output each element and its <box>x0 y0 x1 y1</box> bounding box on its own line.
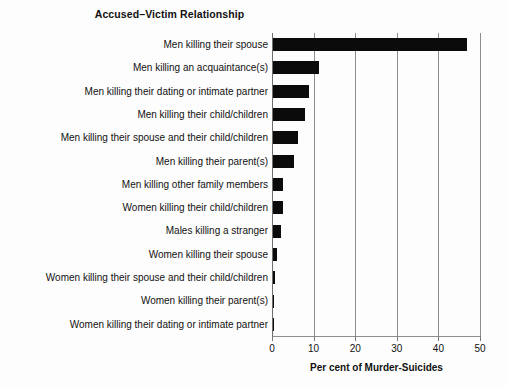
category-label: Women killing their spouse <box>0 243 268 266</box>
bar-chart: Accused–Victim Relationship Men killing … <box>0 0 507 386</box>
bar <box>273 131 298 144</box>
x-tick-label: 30 <box>382 343 412 354</box>
category-label: Men killing their child/children <box>0 103 268 126</box>
x-tick-mark <box>272 336 273 341</box>
category-label: Men killing their spouse and their child… <box>0 126 268 149</box>
x-tick-label: 20 <box>340 343 370 354</box>
category-label: Men killing their spouse <box>0 33 268 56</box>
chart-title: Accused–Victim Relationship <box>0 8 339 20</box>
bar-row: Men killing their dating or intimate par… <box>0 80 507 103</box>
x-tick-mark <box>397 336 398 341</box>
category-label: Men killing an acquaintance(s) <box>0 56 268 79</box>
category-label: Men killing their parent(s) <box>0 150 268 173</box>
bar-row: Men killing their child/children <box>0 103 507 126</box>
bar-row: Men killing their spouse <box>0 33 507 56</box>
bar-row: Women killing their dating or intimate p… <box>0 313 507 336</box>
bar <box>273 248 277 261</box>
bar <box>273 85 309 98</box>
bar-row: Women killing their spouse <box>0 243 507 266</box>
category-label: Males killing a stranger <box>0 219 268 242</box>
bar-row: Males killing a stranger <box>0 219 507 242</box>
bar <box>273 225 281 238</box>
x-tick-mark <box>480 336 481 341</box>
bar-row: Men killing their parent(s) <box>0 150 507 173</box>
category-label: Men killing other family members <box>0 173 268 196</box>
x-axis-title: Per cent of Murder-Suicides <box>272 362 481 373</box>
bar <box>273 108 305 121</box>
bar-row: Men killing other family members <box>0 173 507 196</box>
bar <box>273 271 275 284</box>
bar <box>273 155 294 168</box>
bar-row: Women killing their parent(s) <box>0 289 507 312</box>
bar <box>273 201 283 214</box>
x-tick-mark <box>355 336 356 341</box>
x-tick-label: 10 <box>299 343 329 354</box>
category-label: Women killing their parent(s) <box>0 289 268 312</box>
bar <box>273 178 283 191</box>
bar <box>273 61 319 74</box>
x-tick-label: 40 <box>423 343 453 354</box>
x-tick-label: 50 <box>465 343 495 354</box>
category-label: Women killing their dating or intimate p… <box>0 313 268 336</box>
bar-row: Men killing their spouse and their child… <box>0 126 507 149</box>
bar <box>273 318 274 331</box>
x-tick-mark <box>314 336 315 341</box>
x-tick-label: 0 <box>257 343 287 354</box>
bar-row: Women killing their child/children <box>0 196 507 219</box>
bar-row: Men killing an acquaintance(s) <box>0 56 507 79</box>
bar <box>273 38 467 51</box>
category-label: Men killing their dating or intimate par… <box>0 80 268 103</box>
bar-row: Women killing their spouse and their chi… <box>0 266 507 289</box>
category-label: Women killing their spouse and their chi… <box>0 266 268 289</box>
bar <box>273 295 274 308</box>
x-tick-mark <box>438 336 439 341</box>
category-label: Women killing their child/children <box>0 196 268 219</box>
x-axis-line <box>272 336 481 337</box>
